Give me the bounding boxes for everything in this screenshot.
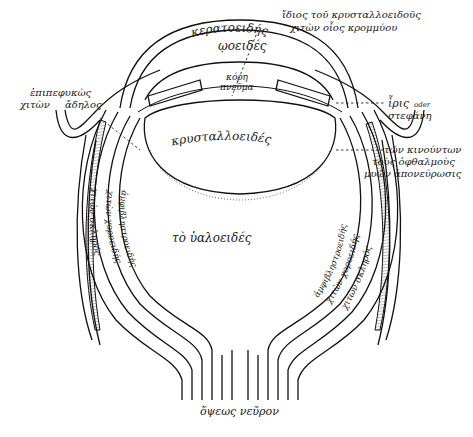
eye-diagram: κερατοειδής ῳοειδές ἴδιος τοῦ κρυσταλλοε… (0, 0, 473, 437)
label-iris-oder: oder (414, 101, 431, 109)
label-optic-nerve: ὄψεως νεῦρον (200, 405, 279, 418)
label-muscles-3: μυῶν ἀπονεύρωσις (364, 168, 462, 179)
label-right-retina: ἀμφιβληστροειδής (311, 223, 348, 299)
lens-shape (144, 100, 335, 200)
label-lens: κρυσταλλοειδές (169, 129, 273, 149)
label-conjunctiva-2: χιτὼν (19, 99, 50, 110)
label-vitreous: τὸ ὑαλοειδές (172, 231, 252, 245)
label-iris-2: στεφάνη (388, 110, 432, 121)
label-uvea: ῳοειδές (218, 39, 267, 53)
label-muscles-1: τῶν κινούντων (384, 144, 461, 155)
label-pupil-2: πνεῦμα (219, 82, 254, 92)
label-muscles-2: τοὺς ὀφθαλμοὺς (372, 156, 455, 167)
label-lens-capsule-2: χιτὼν οἷος κρομμύου (289, 21, 397, 33)
label-iris-1: ἶρις (388, 95, 410, 110)
label-pupil-1: κόρη (225, 72, 249, 82)
label-lens-capsule-1: ἴδιος τοῦ κρυσταλλοειδοῦς (282, 9, 421, 20)
label-conjunctiva-1: ἐπιπεφυκὼς (30, 87, 92, 98)
label-conjunctiva-3: ἄδηλος (65, 99, 102, 110)
